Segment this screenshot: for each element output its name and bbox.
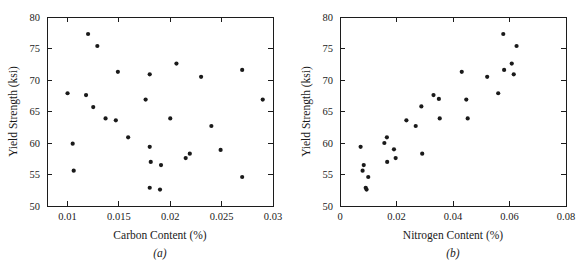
data-point [361,169,365,173]
data-point [366,175,370,179]
data-point [240,68,244,72]
y-tick-label: 65 [30,106,41,117]
data-point [72,169,76,173]
y-tick-label: 55 [323,169,334,180]
data-point [114,118,118,122]
panel-a-svg: 0.010.0150.020.0250.0350556065707580Carb… [0,0,293,267]
x-tick-label: 0.02 [161,211,179,222]
y-tick-label: 75 [30,43,41,54]
y-tick-label: 50 [30,201,41,212]
panel-label: (b) [446,247,460,260]
data-point [364,188,368,192]
y-tick-label: 50 [323,201,334,212]
panel-b-svg: 00.020.040.060.0850556065707580Nitrogen … [293,0,586,267]
plot-frame [47,17,273,206]
data-point [501,32,505,36]
data-point [496,91,500,95]
data-point [148,72,152,76]
y-tick-label: 80 [30,12,41,23]
data-point [404,118,408,122]
x-tick-label: 0.03 [264,211,282,222]
data-point [385,135,389,139]
y-tick-label: 70 [30,75,41,86]
y-tick-label: 75 [323,43,334,54]
data-point [438,116,442,120]
data-point [144,97,148,101]
data-point [261,97,265,101]
data-point [71,142,75,146]
x-axis-title: Carbon Content (%) [113,229,206,242]
y-tick-label: 55 [30,169,41,180]
data-point [392,147,396,151]
data-point [149,160,153,164]
data-point [512,72,516,76]
data-point [359,145,363,149]
data-point [148,145,152,149]
data-point [362,163,366,167]
data-point [91,105,95,109]
y-axis-title: Yield Strength (ksi) [300,66,313,157]
data-point [502,68,506,72]
data-point [240,175,244,179]
data-point [514,44,518,48]
data-point [466,116,470,120]
data-point [95,44,99,48]
data-point [148,186,152,190]
x-axis-title: Nitrogen Content (%) [403,229,503,242]
panel-label: (a) [153,247,167,260]
data-point [209,124,213,128]
y-tick-label: 65 [323,106,334,117]
y-tick-label: 60 [323,138,334,149]
data-point [188,152,192,156]
scatter-plot-figure: 0.010.0150.020.0250.0350556065707580Carb… [0,0,586,267]
data-point [464,97,468,101]
data-point [460,70,464,74]
data-point [420,152,424,156]
data-point [437,97,441,101]
data-point [168,116,172,120]
plot-frame [340,17,566,206]
data-point [394,156,398,160]
x-tick-label: 0.01 [58,211,76,222]
data-point [174,62,178,66]
y-tick-label: 70 [323,75,334,86]
x-tick-label: 0.06 [500,211,518,222]
data-point [199,75,203,79]
data-point [116,70,120,74]
data-point [219,148,223,152]
x-tick-label: 0 [337,211,342,222]
data-point [86,32,90,36]
data-point [84,93,88,97]
data-point [103,116,107,120]
data-point [485,75,489,79]
data-point [414,124,418,128]
y-tick-label: 80 [323,12,334,23]
panel-a-carbon-content: 0.010.0150.020.0250.0350556065707580Carb… [0,0,293,267]
data-point [510,62,514,66]
data-point [184,156,188,160]
data-point [65,91,69,95]
x-tick-label: 0.025 [210,211,234,222]
data-point [385,160,389,164]
data-point [431,93,435,97]
data-point [126,135,130,139]
y-tick-label: 60 [30,138,41,149]
data-point [382,141,386,145]
data-point [159,163,163,167]
data-point [158,188,162,192]
panel-b-nitrogen-content: 00.020.040.060.0850556065707580Nitrogen … [293,0,586,267]
y-axis-title: Yield Strength (ksi) [7,66,20,157]
x-tick-label: 0.04 [444,211,463,222]
x-tick-label: 0.02 [387,211,405,222]
x-tick-label: 0.08 [557,211,575,222]
x-tick-label: 0.015 [107,211,131,222]
data-point [419,104,423,108]
